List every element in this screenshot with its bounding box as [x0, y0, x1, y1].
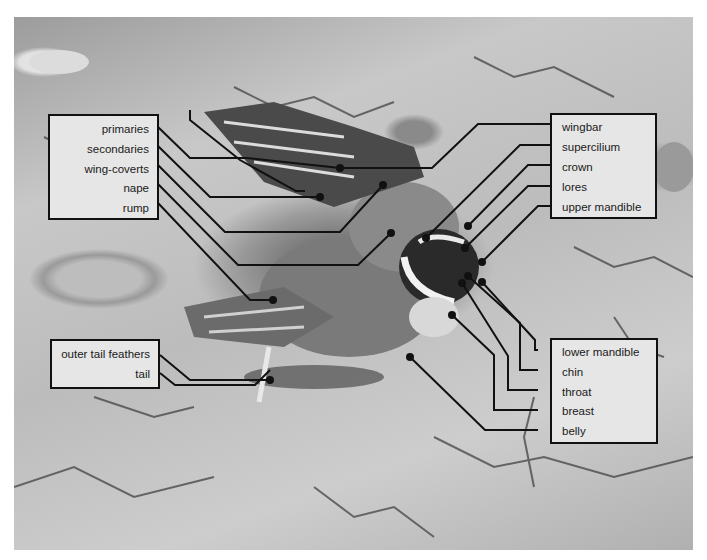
label-tail: tail	[135, 367, 150, 381]
label-upper-mandible: upper mandible	[562, 200, 641, 214]
label-wingbar: wingbar	[562, 120, 602, 134]
tail-labels-box: outer tail feathers tail	[50, 339, 160, 389]
wing-labels-box: primaries secondaries wing-coverts nape …	[48, 114, 159, 220]
label-throat: throat	[562, 385, 591, 399]
label-lores: lores	[562, 180, 587, 194]
label-chin: chin	[562, 365, 583, 379]
label-crown: crown	[562, 160, 593, 174]
label-primaries: primaries	[102, 122, 149, 136]
label-supercilium: supercilium	[562, 140, 620, 154]
label-wing-coverts: wing-coverts	[84, 162, 149, 176]
label-rump: rump	[123, 201, 149, 215]
head-labels-box: wingbar supercilium crown lores upper ma…	[550, 113, 657, 219]
label-belly: belly	[562, 424, 586, 438]
underparts-labels-box: lower mandible chin throat breast belly	[550, 338, 658, 444]
label-outer-tail-feathers: outer tail feathers	[61, 347, 150, 361]
leader-lines	[0, 0, 707, 560]
label-secondaries: secondaries	[87, 142, 149, 156]
label-nape: nape	[123, 181, 149, 195]
label-breast: breast	[562, 404, 594, 418]
label-lower-mandible: lower mandible	[562, 345, 639, 359]
